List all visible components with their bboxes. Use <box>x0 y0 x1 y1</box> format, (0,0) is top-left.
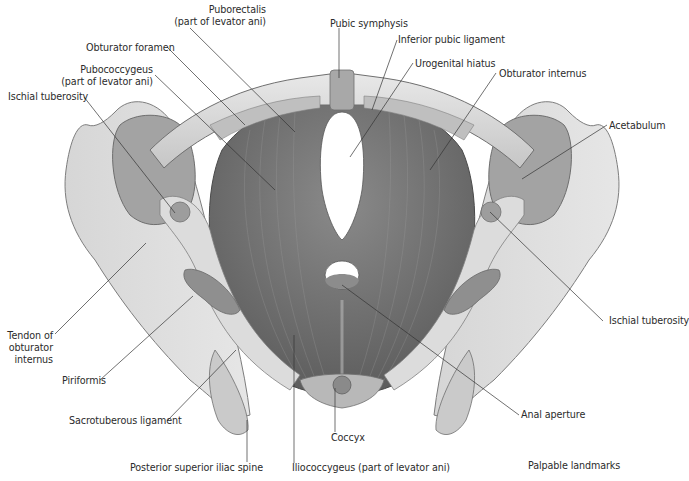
coccyx-bone <box>300 374 384 408</box>
label-obturator-internus: Obturator internus <box>499 68 586 80</box>
label-pubococcygeus: Pubococcygeus (part of levator ani) <box>60 64 153 88</box>
label-piriformis: Piriformis <box>62 375 106 387</box>
label-coccyx: Coccyx <box>331 432 365 444</box>
label-acetabulum: Acetabulum <box>609 120 665 132</box>
anal-aperture-shape <box>325 261 359 289</box>
label-ischial-tuberosity-left: Ischial tuberosity <box>8 91 88 103</box>
label-palpable-landmarks: Palpable landmarks <box>528 460 620 472</box>
label-ischial-tuberosity-right: Ischial tuberosity <box>609 315 689 327</box>
label-pubic-symphysis: Pubic symphysis <box>330 18 408 30</box>
label-iliococcygeus: Iliococcygeus (part of levator ani) <box>292 462 450 474</box>
label-anal-aperture: Anal aperture <box>521 409 585 421</box>
label-posterior-superior-iliac-spine: Posterior superior iliac spine <box>130 462 263 474</box>
label-tendon-of-obturator-internus: Tendon of obturator internus <box>0 330 53 366</box>
label-obturator-foramen: Obturator foramen <box>86 42 175 54</box>
label-urogenital-hiatus: Urogenital hiatus <box>415 58 495 70</box>
label-puborectalis: Puborectalis (part of levator ani) <box>114 4 266 28</box>
label-sacrotuberous-ligament: Sacrotuberous ligament <box>69 415 182 427</box>
label-inferior-pubic-ligament: Inferior pubic ligament <box>398 34 505 46</box>
